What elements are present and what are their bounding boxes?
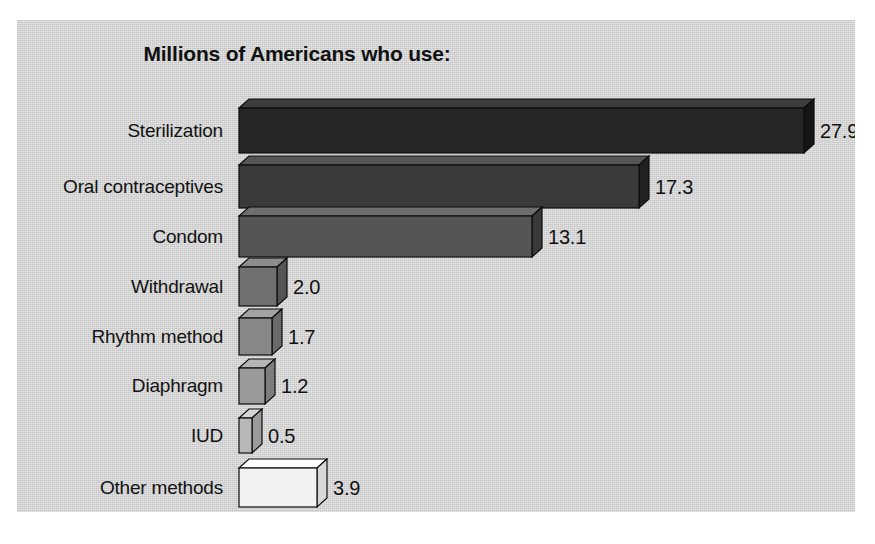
bar-front-face xyxy=(239,165,639,208)
bars-layer xyxy=(239,99,814,507)
bar-top-face xyxy=(239,156,649,165)
bar-top-face xyxy=(239,207,542,216)
chart-title: Millions of Americans who use: xyxy=(17,42,577,66)
bar-front-face xyxy=(239,108,804,153)
value-label: 1.2 xyxy=(281,375,308,397)
value-label: 2.0 xyxy=(293,276,320,298)
bar-top-face xyxy=(239,99,814,108)
bar-front-face xyxy=(239,267,277,306)
bar-top-face xyxy=(239,459,327,468)
category-label: Sterilization xyxy=(127,120,223,141)
category-label: Other methods xyxy=(100,477,223,498)
bar-side-face xyxy=(272,309,282,355)
value-label: 1.7 xyxy=(288,326,315,348)
category-label: Condom xyxy=(152,226,223,247)
bar-front-face xyxy=(239,368,265,404)
value-label: 0.5 xyxy=(268,425,295,447)
bar-chart-plot: Sterilization27.9Oral contraceptives17.3… xyxy=(17,20,855,512)
bar-diaphragm xyxy=(239,359,275,404)
bar-sterilization xyxy=(239,99,814,153)
bar-side-face xyxy=(532,207,542,257)
value-label: 3.9 xyxy=(333,477,360,499)
bar-front-face xyxy=(239,418,252,453)
bar-side-face xyxy=(639,156,649,208)
bar-oral-contraceptives xyxy=(239,156,649,208)
bar-side-face xyxy=(277,258,287,306)
chart-panel: Millions of Americans who use: Steriliza… xyxy=(17,20,855,512)
bar-side-face xyxy=(804,99,814,153)
bar-front-face xyxy=(239,468,317,507)
bar-withdrawal xyxy=(239,258,287,306)
category-label: Diaphragm xyxy=(132,375,223,396)
bar-iud xyxy=(239,409,262,453)
bar-front-face xyxy=(239,216,532,257)
figure-root: Millions of Americans who use: Steriliza… xyxy=(0,0,875,544)
value-label: 27.9 xyxy=(820,120,855,142)
category-label: Withdrawal xyxy=(131,276,223,297)
bar-side-face xyxy=(317,459,327,507)
category-label: Oral contraceptives xyxy=(63,176,223,197)
bar-rhythm-method xyxy=(239,309,282,355)
value-label: 17.3 xyxy=(655,176,693,198)
bar-front-face xyxy=(239,318,272,355)
value-label: 13.1 xyxy=(548,226,586,248)
bar-condom xyxy=(239,207,542,257)
bar-other-methods xyxy=(239,459,327,507)
category-label: Rhythm method xyxy=(91,326,223,347)
category-label: IUD xyxy=(191,425,223,446)
